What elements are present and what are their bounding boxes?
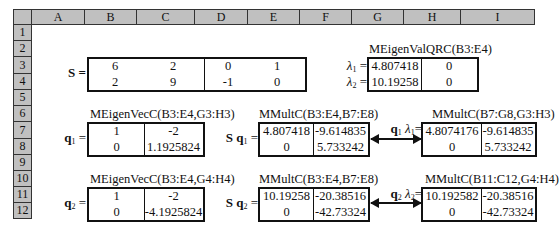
cell-d4[interactable]: -1	[205, 74, 251, 90]
row-header-7[interactable]: 7	[13, 122, 32, 139]
q2-caption: MEigenVecC(B3:E4,G4:H4)	[90, 172, 235, 186]
lambda-sub: 2	[352, 81, 356, 90]
cell-e11[interactable]: 10.19258	[260, 188, 313, 204]
cell-i7[interactable]: -9.614835	[481, 123, 535, 139]
column-header-e[interactable]: E	[248, 9, 300, 25]
cell-h12[interactable]: 0	[423, 204, 481, 220]
cell-f7[interactable]: -9.614835	[313, 123, 368, 139]
q2-lambda2-label: q2 λ2=	[380, 186, 422, 206]
lambda2-label: λ2 =	[335, 74, 367, 94]
row-header-1[interactable]: 1	[13, 25, 32, 41]
row-header-5[interactable]: 5	[13, 90, 32, 106]
equals-sign: =	[79, 130, 86, 145]
q-sub: 2	[71, 202, 75, 211]
cell-b11[interactable]: 1	[89, 188, 144, 204]
equals-sign: =	[251, 130, 258, 145]
cell-e7[interactable]: 4.807418	[260, 123, 313, 139]
row-header-2[interactable]: 2	[13, 41, 32, 57]
q-sub: 1	[243, 137, 247, 146]
row-header-4[interactable]: 4	[13, 74, 32, 90]
cell-e12[interactable]: 0	[260, 204, 313, 220]
cell-c12[interactable]: -4.1925824	[144, 204, 203, 220]
eigenvalues-caption: MEigenValQRC(B3:E4)	[369, 42, 492, 56]
column-header-d[interactable]: D	[195, 9, 248, 25]
row-header-12[interactable]: 12	[13, 203, 32, 219]
cell-c11[interactable]: -2	[144, 188, 203, 204]
cell-i12[interactable]: -42.73324	[481, 204, 535, 220]
row-header-6[interactable]: 6	[13, 106, 32, 122]
cell-e3[interactable]: 1	[254, 58, 300, 74]
equals-sign: =	[251, 195, 258, 210]
matrix-s-label: S =	[54, 65, 86, 81]
cell-d3[interactable]: 0	[205, 58, 251, 74]
cell-b3[interactable]: 6	[90, 58, 140, 74]
q1-caption: MEigenVecC(B3:E4,G3:H3)	[90, 107, 235, 121]
equals-sign: =	[79, 195, 86, 210]
s-symbol: S	[226, 130, 233, 145]
cell-g3[interactable]: 4.807418	[369, 58, 421, 74]
q1lambda1-caption: MMultC(B7:G8,G3:H3)	[432, 107, 555, 121]
q-symbol: q	[391, 121, 398, 136]
cell-e4[interactable]: 0	[254, 74, 300, 90]
cell-h4[interactable]: 0	[421, 74, 477, 90]
column-header-b[interactable]: B	[85, 9, 137, 25]
q-sub: 1	[398, 128, 402, 137]
column-header-h[interactable]: H	[404, 9, 461, 25]
column-header-i[interactable]: I	[461, 9, 535, 25]
row-header-11[interactable]: 11	[13, 187, 32, 203]
select-all-corner[interactable]	[13, 9, 32, 25]
cell-f12[interactable]: -42.73324	[313, 204, 368, 220]
row-header-3[interactable]: 3	[13, 57, 32, 74]
lambda-sub: 1	[352, 65, 356, 74]
row-header-9[interactable]: 9	[13, 155, 32, 171]
cell-c7[interactable]: -2	[144, 123, 203, 139]
q1-lambda1-label: q1 λ1=	[380, 121, 422, 141]
cell-h8[interactable]: 0	[423, 139, 481, 155]
cell-h11[interactable]: 10.192582	[423, 188, 481, 204]
row-header-10[interactable]: 10	[13, 171, 32, 187]
sq2-label: S q2 =	[218, 195, 258, 215]
cell-b4[interactable]: 2	[90, 74, 140, 90]
cell-b7[interactable]: 1	[89, 123, 144, 139]
cell-i8[interactable]: 5.733242	[481, 139, 535, 155]
q1-label: q1 =	[54, 130, 86, 150]
sq2-caption: MMultC(B3:E4,B7:E8)	[259, 172, 378, 186]
q-sub: 2	[398, 193, 402, 202]
column-header-c[interactable]: C	[137, 9, 195, 25]
cell-b8[interactable]: 0	[89, 139, 144, 155]
column-header-f[interactable]: F	[300, 9, 352, 25]
cell-f8[interactable]: 5.733242	[313, 139, 368, 155]
s-symbol: S	[226, 195, 233, 210]
sq1-label: S q1 =	[218, 130, 258, 150]
q-sub: 1	[71, 137, 75, 146]
cell-f11[interactable]: -20.38516	[313, 188, 368, 204]
sq1-caption: MMultC(B3:E4,B7:E8)	[259, 107, 378, 121]
cell-g4[interactable]: 10.19258	[369, 74, 421, 90]
cell-h7[interactable]: 4.8074176	[423, 123, 481, 139]
cell-c3[interactable]: 2	[143, 58, 203, 74]
cell-c4[interactable]: 9	[143, 74, 203, 90]
q2lambda2-caption: MMultC(B11:C12,G4:H4)	[425, 172, 559, 186]
cell-b12[interactable]: 0	[89, 204, 144, 220]
q2-label: q2 =	[54, 195, 86, 215]
cell-i11[interactable]: -20.38516	[481, 188, 535, 204]
column-header-g[interactable]: G	[352, 9, 404, 25]
q-sub: 2	[243, 202, 247, 211]
cell-c8[interactable]: 1.1925824	[144, 139, 203, 155]
cell-e8[interactable]: 0	[260, 139, 313, 155]
column-header-a[interactable]: A	[32, 9, 85, 25]
q-symbol: q	[391, 186, 398, 201]
row-header-8[interactable]: 8	[13, 139, 32, 155]
cell-h3[interactable]: 0	[421, 58, 477, 74]
